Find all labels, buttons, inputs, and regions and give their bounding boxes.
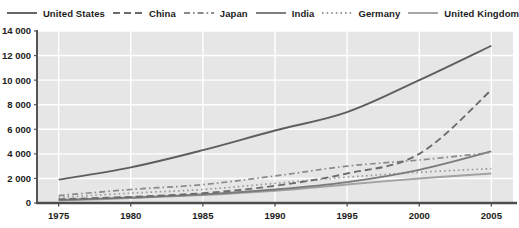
x-axis-tick-label: 1995	[337, 210, 359, 221]
legend-entry-label: Japan	[220, 8, 248, 19]
x-axis-tick-label: 2005	[481, 210, 503, 221]
legend-entry-label: India	[292, 8, 315, 19]
x-axis-tick-labels: 1975198019851990199520002005	[48, 210, 503, 221]
x-axis-tick-label: 1980	[120, 210, 141, 221]
y-axis-tick-label: 4 000	[7, 148, 31, 159]
y-axis-tick-label: 10 000	[2, 75, 31, 86]
legend-entry-label: United States	[43, 8, 105, 19]
y-axis-tick-label: 14 000	[2, 25, 31, 36]
chart-legend: United StatesChinaJapanIndiaGermanyUnite…	[0, 0, 518, 26]
legend-line-swatch	[256, 8, 286, 18]
legend-line-swatch	[7, 8, 37, 18]
x-axis-tick-label: 1975	[48, 210, 70, 221]
legend-line-swatch	[113, 8, 143, 18]
x-axis-tick-label: 1985	[192, 210, 214, 221]
legend-entry-label: United Kingdom	[444, 8, 519, 19]
legend-entry[interactable]: India	[248, 8, 315, 19]
y-axis-tick-label: 0	[26, 197, 31, 208]
legend-line-swatch	[322, 8, 352, 18]
y-axis-tick-label: 12 000	[2, 50, 31, 61]
legend-line-swatch	[184, 8, 214, 18]
legend-entry-label: Germany	[358, 8, 400, 19]
legend-entry[interactable]: Japan	[176, 8, 248, 19]
legend-entry[interactable]: China	[105, 8, 176, 19]
y-axis-tick-labels: 02 0004 0006 0008 00010 00012 00014 000	[2, 25, 31, 208]
legend-entry[interactable]: Germany	[314, 8, 400, 19]
y-axis-tick-label: 8 000	[7, 99, 31, 110]
legend-entry[interactable]: United Kingdom	[400, 8, 519, 19]
legend-line-swatch	[408, 8, 438, 18]
y-axis-tick-label: 6 000	[7, 124, 31, 135]
chart-plot-area: 02 0004 0006 0008 00010 00012 00014 000 …	[0, 24, 518, 228]
x-axis-tick-label: 2000	[409, 210, 430, 221]
x-axis-tick-label: 1990	[264, 210, 285, 221]
legend-entry[interactable]: United States	[0, 8, 105, 19]
y-axis-tick-label: 2 000	[7, 173, 31, 184]
legend-entry-label: China	[149, 8, 176, 19]
